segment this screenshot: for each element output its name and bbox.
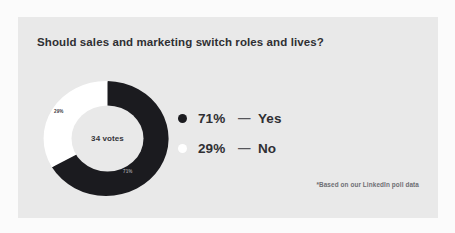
poll-card: Should sales and marketing switch roles … xyxy=(18,17,438,218)
legend-label-no: No xyxy=(258,141,276,156)
legend-percent-no: 29% xyxy=(198,141,238,156)
legend-dark-dot-icon xyxy=(178,114,187,123)
donut-hole xyxy=(72,106,144,172)
legend-dash-yes: — xyxy=(238,111,258,125)
legend-label-yes: Yes xyxy=(258,111,282,126)
page-title: Should sales and marketing switch roles … xyxy=(37,36,324,48)
source-footnote: *Based on our LinkedIn poll data xyxy=(316,181,419,188)
donut-svg xyxy=(42,78,173,199)
donut-label-yes: 71% xyxy=(123,169,133,174)
legend-item-no: 29% — No xyxy=(178,139,282,157)
donut-chart: 34 votes 29% 71% xyxy=(42,78,173,199)
legend-dash-no: — xyxy=(238,141,258,155)
legend-item-yes: 71% — Yes xyxy=(178,109,282,127)
chart-legend: 71% — Yes 29% — No xyxy=(178,109,282,157)
poll-graphic: Should sales and marketing switch roles … xyxy=(0,0,455,233)
legend-white-dot-icon xyxy=(178,144,187,153)
donut-label-no: 29% xyxy=(54,109,64,114)
legend-percent-yes: 71% xyxy=(198,111,238,126)
